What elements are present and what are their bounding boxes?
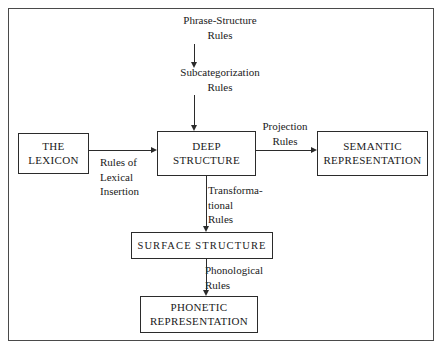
node-phonetic-representation: PHONETIC REPRESENTATION — [140, 296, 258, 333]
connector-lexicon-to-deep-structure — [89, 150, 152, 151]
label-subcategorization-rules: Subcategorization Rules — [155, 65, 285, 94]
node-phonetic-representation-label: PHONETIC REPRESENTATION — [141, 301, 257, 329]
node-semantic-representation: SEMANTIC REPRESENTATION — [317, 131, 428, 176]
grammar-model-diagram: Phrase-Structure Rules Subcategorization… — [0, 0, 442, 353]
connector-subcategorization-to-deep-structure — [194, 95, 195, 126]
node-the-lexicon-label: THE LEXICON — [19, 140, 88, 168]
node-the-lexicon: THE LEXICON — [18, 133, 89, 174]
node-deep-structure-label: DEEP STRUCTURE — [158, 140, 255, 168]
label-phrase-structure-rules: Phrase-Structure Rules — [160, 13, 280, 42]
label-transformational-rules: Transforma- tional Rules — [208, 183, 286, 227]
node-deep-structure: DEEP STRUCTURE — [157, 131, 256, 176]
connector-phrase-structure-to-subcategorization — [194, 44, 195, 64]
label-projection-rules: Projection Rules — [252, 119, 318, 148]
connector-deep-structure-to-semantic-representation — [256, 150, 312, 151]
node-surface-structure-label: SURFACE STRUCTURE — [137, 239, 266, 252]
node-surface-structure: SURFACE STRUCTURE — [131, 232, 273, 259]
connector-surface-structure-to-phonetic-representation — [206, 259, 207, 291]
connector-deep-structure-to-surface-structure — [206, 176, 207, 227]
label-phonological-rules: Phonological Rules — [205, 263, 285, 292]
label-rules-of-lexical-insertion: Rules of Lexical Insertion — [100, 155, 162, 199]
node-semantic-representation-label: SEMANTIC REPRESENTATION — [318, 140, 427, 168]
